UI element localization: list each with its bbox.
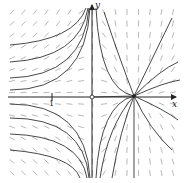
node-point bbox=[132, 94, 136, 98]
trajectories bbox=[10, 8, 180, 178]
tick-label: 1 bbox=[49, 99, 54, 108]
saddle-point bbox=[90, 95, 94, 99]
phase-portrait-canvas bbox=[0, 0, 186, 183]
axes bbox=[8, 5, 176, 178]
x-axis-label: x bbox=[172, 99, 177, 109]
y-axis-label: y bbox=[95, 0, 100, 10]
